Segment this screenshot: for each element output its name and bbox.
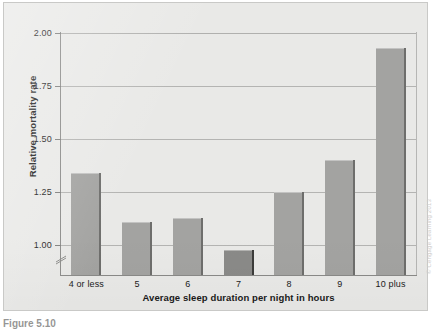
y-axis-title: Relative mortality rate — [27, 52, 38, 202]
figure-container: Relative mortality rate Average sleep du… — [0, 0, 437, 330]
plot-right-border — [416, 32, 417, 276]
bar-slot — [376, 33, 406, 275]
bar-slot — [71, 33, 101, 275]
y-tick-label-1.50: 1.50 — [34, 134, 52, 144]
x-tick-label-6: 6 — [162, 279, 213, 289]
x-tick-label-4-or-less: 4 or less — [61, 279, 112, 289]
y-tick-label-2.00: 2.00 — [34, 28, 52, 38]
plot-area: 2.001.751.501.251.00 4 or less5678910 pl… — [61, 33, 416, 275]
x-tick-label-9: 9 — [315, 279, 366, 289]
bar-slot — [173, 33, 203, 275]
figure-caption: Figure 5.10 — [3, 318, 233, 330]
bar-slot — [274, 33, 304, 275]
bar-slot — [122, 33, 152, 275]
bar-10-plus[interactable] — [376, 48, 406, 275]
copyright-credit: © Cengage Learning 2013 — [426, 199, 432, 274]
bar-series — [61, 33, 416, 275]
chart-panel: Relative mortality rate Average sleep du… — [3, 2, 428, 311]
figure-caption-text: Figure 5.10 — [3, 318, 233, 330]
x-axis-title: Average sleep duration per night in hour… — [61, 292, 416, 303]
y-tick-label-1.00: 1.00 — [34, 240, 52, 250]
bar-5[interactable] — [122, 222, 152, 275]
y-tick-label-1.75: 1.75 — [34, 81, 52, 91]
x-axis-line — [60, 275, 417, 276]
bar-8[interactable] — [274, 192, 304, 275]
bar-7[interactable] — [224, 250, 254, 275]
bar-slot — [325, 33, 355, 275]
x-tick-label-8: 8 — [264, 279, 315, 289]
bar-6[interactable] — [173, 218, 203, 275]
x-tick-label-7: 7 — [213, 279, 264, 289]
x-tick-label-5: 5 — [112, 279, 163, 289]
bar-slot — [224, 33, 254, 275]
y-tick-label-1.25: 1.25 — [34, 187, 52, 197]
bar-9[interactable] — [325, 160, 355, 275]
x-tick-label-10-plus: 10 plus — [365, 279, 416, 289]
bar-4-or-less[interactable] — [71, 173, 101, 275]
